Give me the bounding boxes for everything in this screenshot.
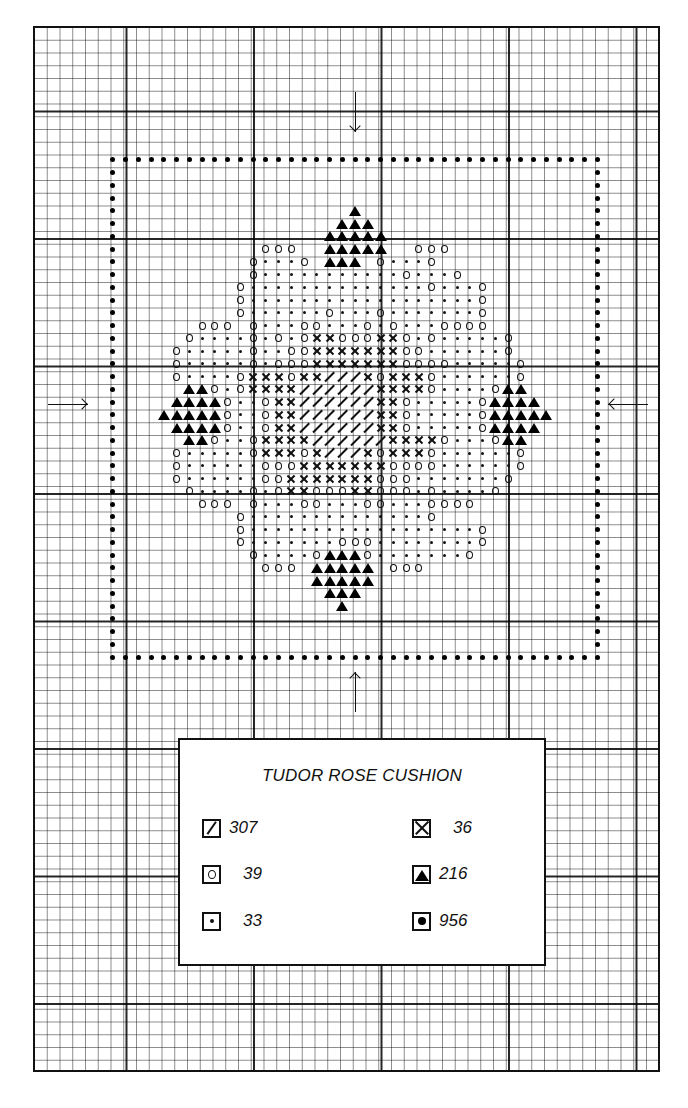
border-dot-icon [553, 154, 566, 167]
dot-stitch-icon [260, 511, 273, 524]
dot-stitch-icon [349, 319, 362, 332]
dot-stitch-icon [438, 370, 451, 383]
dot-stitch-icon [285, 536, 298, 549]
dot-stitch-icon [438, 396, 451, 409]
border-dot-icon [107, 574, 120, 587]
circle-stitch-icon [298, 498, 311, 511]
legend-item-216: 216 [412, 864, 467, 884]
dot-stitch-icon [438, 421, 451, 434]
cross-stitch-icon [362, 345, 375, 358]
border-dot-icon [349, 651, 362, 664]
cross-stitch-icon [374, 396, 387, 409]
dot-stitch-icon [451, 281, 464, 294]
dot-stitch-icon [400, 319, 413, 332]
dot-stitch-icon [260, 294, 273, 307]
dot-stitch-icon [272, 549, 285, 562]
dot-stitch-icon [438, 307, 451, 320]
circle-stitch-icon [234, 281, 247, 294]
cross-stitch-icon [374, 358, 387, 371]
dot-stitch-icon [247, 511, 260, 524]
border-dot-icon [107, 498, 120, 511]
dot-stitch-icon [336, 307, 349, 320]
dot-stitch-icon [298, 536, 311, 549]
dot-stitch-icon [476, 447, 489, 460]
cross-stitch-icon [400, 383, 413, 396]
circle-stitch-icon [438, 358, 451, 371]
border-dot-icon [553, 651, 566, 664]
circle-stitch-icon [170, 472, 183, 485]
circle-stitch-icon [247, 485, 260, 498]
dot-stitch-icon [285, 256, 298, 269]
dot-stitch-icon [336, 281, 349, 294]
diagonal-stitch-icon [323, 421, 336, 434]
cross-stitch-icon [349, 472, 362, 485]
border-dot-icon [221, 154, 234, 167]
circle-stitch-icon [272, 358, 285, 371]
border-dot-icon [260, 154, 273, 167]
border-dot-icon [438, 154, 451, 167]
triangle-stitch-icon [336, 256, 349, 269]
border-dot-icon [591, 319, 604, 332]
triangle-stitch-icon [502, 383, 515, 396]
border-dot-icon [260, 651, 273, 664]
circle-stitch-icon [362, 332, 375, 345]
circle-stitch-icon [502, 332, 515, 345]
cross-stitch-icon [362, 370, 375, 383]
circle-stitch-icon [451, 268, 464, 281]
circle-stitch-icon [438, 319, 451, 332]
circle-stitch-icon [234, 294, 247, 307]
circle-stitch-icon [362, 319, 375, 332]
dot-stitch-icon [374, 268, 387, 281]
circle-stitch-icon [374, 370, 387, 383]
cross-stitch-icon [349, 485, 362, 498]
dot-stitch-icon [260, 268, 273, 281]
triangle-stitch-icon [349, 256, 362, 269]
circle-stitch-icon [400, 409, 413, 422]
circle-stitch-icon [260, 472, 273, 485]
dot-stitch-icon [438, 447, 451, 460]
dot-stitch-icon [400, 498, 413, 511]
circle-stitch-icon [170, 370, 183, 383]
border-dot-icon [451, 651, 464, 664]
border-dot-icon [107, 523, 120, 536]
cross-stitch-icon [413, 383, 426, 396]
dot-stitch-icon [272, 307, 285, 320]
dot-stitch-icon [374, 511, 387, 524]
dot-stitch-icon [451, 472, 464, 485]
dot-stitch-icon [413, 523, 426, 536]
cross-stitch-icon [374, 345, 387, 358]
diagonal-stitch-icon [362, 383, 375, 396]
border-dot-icon [107, 447, 120, 460]
triangle-stitch-icon [515, 434, 528, 447]
circle-stitch-icon [374, 485, 387, 498]
border-dot-icon [578, 651, 591, 664]
dot-stitch-icon [374, 549, 387, 562]
circle-stitch-icon [170, 460, 183, 473]
circle-stitch-icon [260, 396, 273, 409]
dot-stitch-icon [451, 447, 464, 460]
dot-stitch-icon [298, 294, 311, 307]
border-dot-icon [107, 587, 120, 600]
dot-stitch-icon [234, 409, 247, 422]
border-dot-icon [196, 651, 209, 664]
border-dot-icon [107, 243, 120, 256]
triangle-stitch-icon [336, 587, 349, 600]
dot-stitch-icon [272, 345, 285, 358]
circle-stitch-icon [183, 332, 196, 345]
border-dot-icon [451, 154, 464, 167]
dot-stitch-icon [362, 523, 375, 536]
cross-stitch-icon [311, 460, 324, 473]
border-dot-icon [515, 154, 528, 167]
circle-stitch-icon [349, 332, 362, 345]
cross-stitch-icon [425, 434, 438, 447]
dot-stitch-icon [425, 294, 438, 307]
dot-stitch-icon [476, 472, 489, 485]
circle-stitch-icon [425, 358, 438, 371]
border-dot-icon [489, 651, 502, 664]
circle-stitch-icon [374, 307, 387, 320]
circle-stitch-icon [170, 345, 183, 358]
border-dot-icon [119, 154, 132, 167]
circle-stitch-icon [234, 307, 247, 320]
cross-stitch-icon [285, 396, 298, 409]
dot-stitch-icon [234, 421, 247, 434]
